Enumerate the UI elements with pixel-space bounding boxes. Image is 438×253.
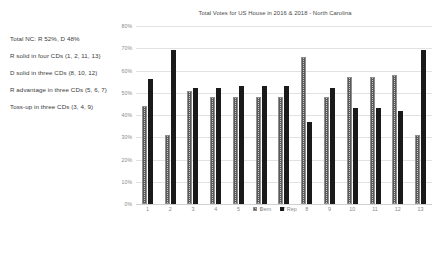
bar-dem-4 bbox=[210, 97, 215, 204]
legend-label-dem: Dem bbox=[260, 206, 271, 212]
y-axis-tick: 70% bbox=[122, 45, 132, 51]
bar-group bbox=[295, 26, 318, 204]
annotation-line: R solid in four CDs (1, 2, 11, 13) bbox=[10, 51, 114, 61]
bar-dem-5 bbox=[233, 97, 238, 204]
y-axis-labels: 0%10%20%30%40%50%60%70%80% bbox=[116, 26, 134, 204]
annotation-line: Total NC: R 52%, D 48% bbox=[10, 34, 114, 44]
annotation-line: Toss-up in three CDs (3, 4, 9) bbox=[10, 102, 114, 112]
bar-dem-3 bbox=[187, 91, 192, 204]
bar-rep-2 bbox=[171, 50, 176, 204]
slide-canvas: Total NC: R 52%, D 48% R solid in four C… bbox=[0, 0, 438, 253]
legend-item-rep: Rep bbox=[280, 206, 296, 212]
bar-rep-12 bbox=[398, 111, 403, 204]
x-axis-line bbox=[136, 204, 432, 205]
bar-rep-7 bbox=[284, 86, 289, 204]
dem-swatch-icon bbox=[253, 207, 257, 211]
plot-area: 0%10%20%30%40%50%60%70%80% 1234567891011… bbox=[116, 26, 434, 216]
bar-dem-7 bbox=[278, 97, 283, 204]
bar-rep-9 bbox=[330, 88, 335, 204]
y-axis-tick: 30% bbox=[122, 134, 132, 140]
bar-chart: Total Votes for US House in 2016 & 2018 … bbox=[116, 4, 434, 249]
bar-rep-13 bbox=[421, 50, 426, 204]
plot-canvas bbox=[136, 26, 432, 204]
bar-group bbox=[318, 26, 341, 204]
bar-group bbox=[250, 26, 273, 204]
bar-rep-4 bbox=[216, 88, 221, 204]
bar-dem-8 bbox=[301, 57, 306, 204]
chart-title: Total Votes for US House in 2016 & 2018 … bbox=[116, 10, 434, 16]
bar-group bbox=[386, 26, 409, 204]
bar-dem-12 bbox=[392, 75, 397, 204]
bar-dem-13 bbox=[415, 135, 420, 204]
bar-dem-10 bbox=[347, 77, 352, 204]
bar-group bbox=[341, 26, 364, 204]
bar-rep-6 bbox=[262, 86, 267, 204]
bar-group bbox=[227, 26, 250, 204]
bar-rep-8 bbox=[307, 122, 312, 204]
annotation-list: Total NC: R 52%, D 48% R solid in four C… bbox=[10, 34, 114, 120]
bar-group bbox=[409, 26, 432, 204]
bar-group bbox=[273, 26, 296, 204]
bar-rep-3 bbox=[193, 88, 198, 204]
y-axis-tick: 10% bbox=[122, 179, 132, 185]
y-axis-tick: 40% bbox=[122, 112, 132, 118]
bar-dem-2 bbox=[165, 135, 170, 204]
legend-item-dem: Dem bbox=[253, 206, 271, 212]
bar-groups bbox=[136, 26, 432, 204]
bar-group bbox=[364, 26, 387, 204]
legend-label-rep: Rep bbox=[287, 206, 297, 212]
bar-group bbox=[182, 26, 205, 204]
bar-dem-11 bbox=[370, 77, 375, 204]
y-axis-tick: 20% bbox=[122, 157, 132, 163]
chart-legend: Dem Rep bbox=[116, 206, 434, 212]
bar-rep-1 bbox=[148, 79, 153, 204]
y-axis-tick: 50% bbox=[122, 90, 132, 96]
y-axis-tick: 60% bbox=[122, 68, 132, 74]
bar-group bbox=[204, 26, 227, 204]
bar-dem-9 bbox=[324, 97, 329, 204]
bar-rep-5 bbox=[239, 86, 244, 204]
bar-group bbox=[136, 26, 159, 204]
annotation-line: R advantage in three CDs (5, 6, 7) bbox=[10, 85, 114, 95]
bar-dem-6 bbox=[256, 97, 261, 204]
bar-rep-11 bbox=[376, 108, 381, 204]
bar-rep-10 bbox=[353, 108, 358, 204]
bar-group bbox=[159, 26, 182, 204]
y-axis-tick: 80% bbox=[122, 23, 132, 29]
rep-swatch-icon bbox=[280, 207, 284, 211]
bar-dem-1 bbox=[142, 106, 147, 204]
annotation-line: D solid in three CDs (8, 10, 12) bbox=[10, 68, 114, 78]
